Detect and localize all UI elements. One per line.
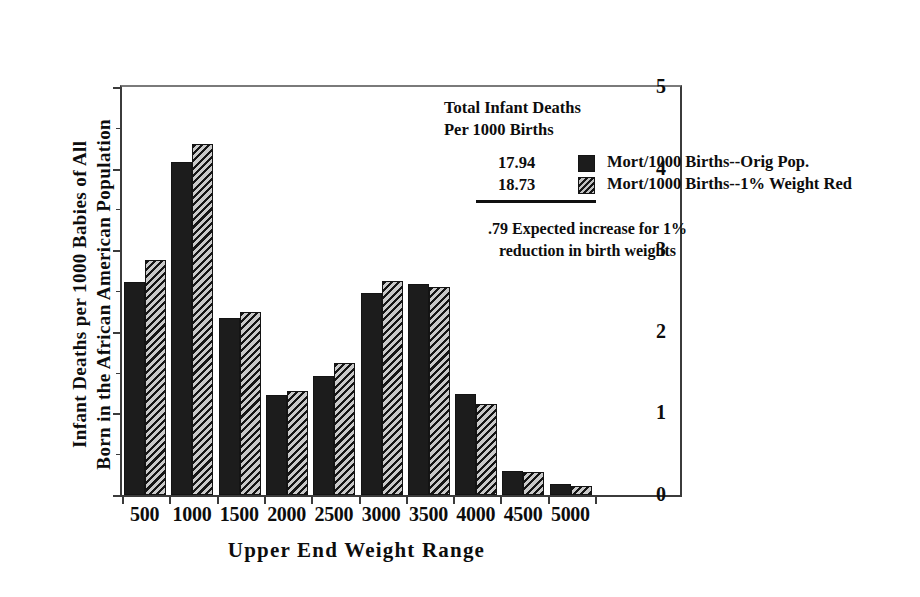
y-tick-minor: [116, 373, 122, 374]
annotation-underline: [476, 200, 596, 203]
plot-area: 012345: [120, 85, 682, 497]
bar: [502, 471, 523, 495]
x-tick: [453, 495, 455, 504]
x-tick-label: 1000: [173, 503, 212, 526]
x-tick-label: 3000: [362, 503, 401, 526]
bar: [523, 472, 544, 495]
x-tick: [122, 495, 124, 504]
x-tick-label: 4500: [504, 503, 543, 526]
bar: [266, 395, 287, 495]
bar: [476, 404, 497, 495]
legend-swatch-weight-red: [578, 177, 595, 194]
y-tick-label: 1: [656, 401, 666, 424]
annotation-heading: Total Infant Deaths Per 1000 Births: [444, 97, 581, 141]
annotation-value-reduced: 18.73: [498, 175, 535, 195]
x-tick: [311, 495, 313, 504]
y-tick-minor: [116, 209, 122, 210]
y-tick: [113, 250, 122, 252]
bar: [171, 162, 192, 495]
bar: [455, 394, 476, 495]
x-tick-label: 1500: [220, 503, 259, 526]
bar: [240, 312, 261, 495]
x-tick: [217, 495, 219, 504]
x-tick-label: 500: [130, 503, 159, 526]
y-tick-minor: [116, 454, 122, 455]
bar: [219, 318, 240, 495]
bar: [192, 144, 213, 495]
x-tick-label: 2000: [267, 503, 306, 526]
bar-chart-figure: Infant Deaths per 1000 Babies of All Bor…: [0, 0, 920, 597]
bar: [287, 391, 308, 495]
x-tick: [169, 495, 171, 504]
x-tick: [595, 495, 597, 504]
x-tick: [406, 495, 408, 504]
bar: [429, 287, 450, 495]
bar: [124, 282, 145, 495]
y-tick-label: 5: [656, 75, 666, 98]
y-axis-title: Infant Deaths per 1000 Babies of All Bor…: [68, 14, 117, 574]
x-tick-label: 4000: [456, 503, 495, 526]
bar: [550, 484, 571, 495]
legend-swatch-orig-pop: [578, 155, 595, 172]
annotation-value-original: 17.94: [498, 153, 535, 173]
x-tick-label: 5000: [551, 503, 590, 526]
bar: [361, 293, 382, 495]
y-tick-label: 2: [656, 320, 666, 343]
bar: [313, 376, 334, 495]
y-tick-minor: [116, 291, 122, 292]
x-tick-label: 3500: [409, 503, 448, 526]
bar: [145, 260, 166, 495]
x-axis-title: Upper End Weight Range: [120, 538, 593, 563]
bar: [334, 363, 355, 495]
legend-label-weight-red: Mort/1000 Births--1% Weight Red: [607, 174, 852, 194]
x-tick: [500, 495, 502, 504]
y-tick-label: 0: [656, 483, 666, 506]
y-tick: [113, 413, 122, 415]
y-tick: [113, 87, 122, 89]
y-tick-minor: [116, 128, 122, 129]
x-tick: [359, 495, 361, 504]
bar: [408, 284, 429, 495]
x-tick: [264, 495, 266, 504]
y-tick: [113, 332, 122, 334]
x-tick-label: 2500: [314, 503, 353, 526]
y-tick: [113, 495, 122, 497]
annotation-difference-note: .79 Expected increase for 1% reduction i…: [488, 218, 687, 262]
x-tick: [548, 495, 550, 504]
legend-label-orig-pop: Mort/1000 Births--Orig Pop.: [607, 152, 809, 172]
bar: [571, 486, 592, 495]
y-tick: [113, 169, 122, 171]
bar: [382, 281, 403, 495]
